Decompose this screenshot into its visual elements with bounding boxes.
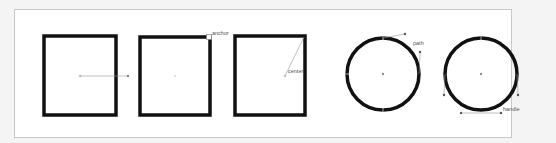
circle-1: path <box>345 33 424 112</box>
circle-2-bottom-left-handle <box>460 112 462 114</box>
circle-1-center-point <box>382 73 384 75</box>
square-1-endpoint <box>127 75 129 77</box>
circle-2: handle <box>443 36 520 114</box>
square-2-center-point <box>174 75 175 76</box>
circle-1-top-handle <box>404 33 406 35</box>
anchor-point-marker <box>207 35 212 40</box>
square-2: anchor <box>140 30 229 115</box>
shapes-diagram: anchor center path handle <box>0 0 556 143</box>
circle-2-right-handle <box>517 94 519 96</box>
circle-2-center-point <box>480 73 482 75</box>
circle-2-left-handle <box>443 94 445 96</box>
square-1-outline <box>44 36 116 115</box>
path-label: path <box>413 40 424 46</box>
center-label: center <box>288 68 303 74</box>
square-3-outline <box>235 36 305 115</box>
handle-label: handle <box>503 106 520 112</box>
circle-1-right-handle <box>419 51 421 53</box>
circle-2-bottom-right-handle <box>500 112 502 114</box>
anchor-label: anchor <box>212 30 229 36</box>
square-3: center <box>235 36 305 115</box>
circle-1-top-handle-line <box>383 34 405 38</box>
square-1 <box>44 36 129 115</box>
